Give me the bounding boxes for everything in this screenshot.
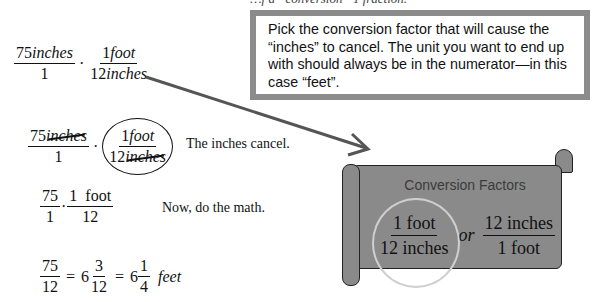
or-label: or [458,225,474,246]
fraction-75-inches: 75inches 1 [14,44,75,83]
fraction-75-over-1: 75 1 [40,187,60,226]
fraction-75-inches-cancelled: 75inches 1 [28,127,89,166]
step-2-note: The inches cancel. [186,136,290,152]
highlight-circle [372,198,460,288]
circled-conversion-factor: 1foot 12inches [102,118,173,175]
factor-inches-per-foot: 12 inches 1 foot [483,212,555,259]
step-1-expression: 75inches 1 · 1foot 12inches [14,44,149,83]
fraction-foot-per-inches: 1foot 12inches [88,44,149,83]
step-3-note: Now, do the math. [162,200,265,216]
scroll-title: Conversion Factors [370,177,560,193]
scroll-roll-left-icon [342,164,360,286]
step-3-expression: 75 1 · 1 foot 12 [40,187,113,226]
result-unit: feet [158,268,181,286]
step-2-expression: 75inches 1 · 1foot 12inches [28,118,173,175]
fraction-1-foot-over-12: 1 foot 12 [67,187,113,226]
mixed-number-6-3-12: 6 312 [81,257,109,296]
step-4-result: 75 12 = 6 312 = 6 14 feet [40,257,181,296]
mixed-number-6-1-4: 6 14 [130,257,150,296]
fraction-75-over-12: 75 12 [40,257,60,296]
